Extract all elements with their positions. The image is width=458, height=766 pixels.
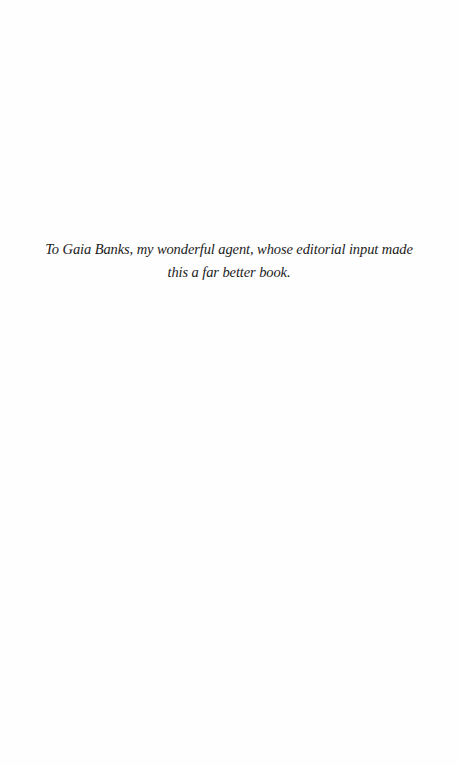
book-page: To Gaia Banks, my wonderful agent, whose… [0,0,458,766]
dedication-text: To Gaia Banks, my wonderful agent, whose… [44,238,414,284]
